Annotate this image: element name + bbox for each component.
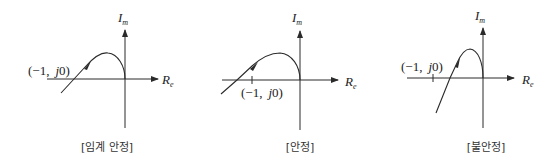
panel-stable: (−1,j0) Im Re [안정]: [221, 10, 357, 154]
nyquist-diagram: (−1,j0) Im Re [임계 안정] (−1,j0) Im Re [안정]…: [0, 0, 560, 168]
imag-axis-label: Im: [117, 10, 128, 27]
critical-point-label: (−1,j0): [28, 63, 70, 78]
direction-arrow-icon: [84, 61, 91, 70]
real-axis-label: Re: [344, 74, 357, 91]
real-axis-label: Re: [521, 72, 534, 89]
imag-axis-label: Im: [291, 10, 302, 27]
critical-point-label: (−1,j0): [241, 85, 283, 100]
panel-unstable: (−1,j0) Im Re [불안정]: [401, 8, 534, 154]
critical-point-label: (−1,j0): [401, 59, 443, 74]
caption-critical: [임계 안정]: [81, 141, 133, 154]
nyquist-curve: [61, 53, 125, 93]
direction-arrow-icon: [455, 58, 460, 68]
caption-stable: [안정]: [286, 141, 315, 154]
panel-critical-stable: (−1,j0) Im Re [임계 안정]: [28, 10, 174, 154]
caption-unstable: [불안정]: [467, 141, 506, 154]
imag-axis-label: Im: [474, 8, 485, 25]
real-axis-label: Re: [161, 72, 174, 89]
nyquist-curve: [436, 49, 483, 113]
